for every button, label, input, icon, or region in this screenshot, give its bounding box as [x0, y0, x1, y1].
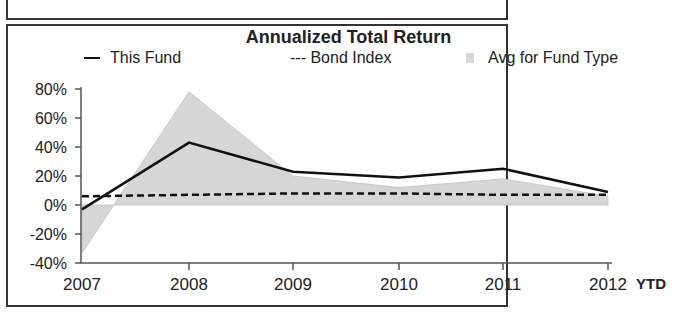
x-tick-label: 2007	[63, 275, 101, 294]
y-tick-label: 60%	[35, 110, 67, 127]
y-tick-label: 0%	[44, 197, 67, 214]
x-tick-label: 2010	[380, 275, 418, 294]
ytd-label: YTD	[636, 275, 666, 292]
x-tick-label: 2011	[485, 275, 522, 294]
x-tick-label: 2008	[170, 275, 208, 294]
y-tick-label: -20%	[30, 226, 67, 243]
y-tick-label: 40%	[35, 139, 67, 156]
y-tick-label: 20%	[35, 168, 67, 185]
x-tick-label: 2009	[274, 275, 312, 294]
chart-plot: 80%60%40%20%0%-20%-40%200720082009201020…	[0, 0, 697, 326]
y-tick-label: -40%	[30, 255, 67, 272]
y-tick-label: 80%	[35, 81, 67, 98]
x-tick-label: 2012	[589, 275, 627, 294]
avg-fund-type-area	[82, 92, 608, 253]
